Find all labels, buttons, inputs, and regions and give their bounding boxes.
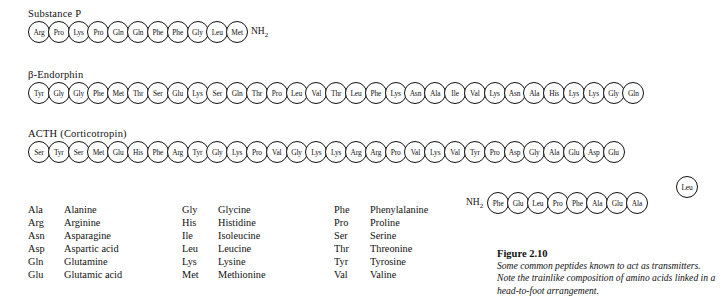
residue-val: Val (266, 141, 288, 163)
peptide-title-beta-endorphin: β-Endorphin (28, 69, 642, 80)
acth-wrap-chain: PheGluLeuProPheAlaGluAla (487, 192, 646, 214)
legend-abbreviation: Ser (334, 229, 370, 242)
legend-abbreviation: Ile (182, 229, 218, 242)
legend-name: Valine (370, 268, 428, 281)
legend-name: Arginine (64, 216, 182, 229)
residue-gln: Gln (226, 82, 248, 104)
peptide-beta-endorphin: β-Endorphin TyrGlyGlyPheMetThrSerGluLysS… (28, 69, 642, 104)
residue-phe: Phe (147, 21, 169, 43)
residue-lys: Lys (305, 141, 327, 163)
peptide-title-acth: ACTH (Corticotropin) (28, 128, 622, 139)
residue-asp: Asp (504, 141, 526, 163)
legend-name: Asparagine (64, 229, 182, 242)
residue-val: Val (305, 82, 327, 104)
residue-asp: Asp (583, 141, 605, 163)
residue-lys: Lys (226, 141, 248, 163)
legend-abbreviation: Val (334, 268, 370, 281)
residue-pro: Pro (484, 141, 506, 163)
legend-abbreviation: Glu (28, 268, 64, 281)
residue-phe: Phe (147, 141, 169, 163)
residue-lys: Lys (424, 141, 446, 163)
residue-ala: Ala (424, 82, 446, 104)
residue-gln: Gln (622, 82, 644, 104)
legend-abbreviation: Lys (182, 255, 218, 268)
residue-arg: Arg (28, 21, 50, 43)
residue-tyr: Tyr (464, 141, 486, 163)
residue-val: Val (404, 141, 426, 163)
residue-lys: Lys (325, 141, 347, 163)
acth-n-terminal-label: NH2 (466, 197, 483, 210)
amino-acid-abbreviation-legend: AlaAlanineGlyGlycinePhePhenylalanineArgA… (28, 203, 428, 282)
residue-met: Met (226, 21, 248, 43)
peptide-title-substance-p: Substance P (28, 8, 268, 19)
figure-caption-text: Some common peptides known to act as tra… (497, 260, 717, 297)
residue-his: His (127, 141, 149, 163)
legend-abbreviation: Ala (28, 203, 64, 216)
residue-ala: Ala (626, 192, 648, 214)
legend-abbreviation: Thr (334, 242, 370, 255)
legend-abbreviation: Gly (182, 203, 218, 216)
residue-val: Val (444, 141, 466, 163)
legend-abbreviation: Tyr (334, 255, 370, 268)
residue-gln: Gln (107, 21, 129, 43)
residue-arg: Arg (345, 141, 367, 163)
legend-abbreviation: Met (182, 268, 218, 281)
residue-phe: Phe (487, 192, 509, 214)
legend-name: Threonine (370, 242, 428, 255)
residue-pro: Pro (48, 21, 70, 43)
legend-name: Glycine (218, 203, 334, 216)
residue-thr: Thr (127, 82, 149, 104)
residue-thr: Thr (325, 82, 347, 104)
residue-tyr: Tyr (28, 82, 50, 104)
legend-abbreviation: Arg (28, 216, 64, 229)
residue-glu: Glu (606, 192, 628, 214)
acth-wrap-row: NH2 PheGluLeuProPheAlaGluAla (466, 192, 646, 214)
legend-name: Aspartic acid (64, 242, 182, 255)
legend-name: Methionine (218, 268, 334, 281)
acth-corner-residue-container: Leu (676, 176, 696, 198)
residue-leu: Leu (206, 21, 228, 43)
residue-ser: Ser (68, 141, 90, 163)
residue-pro: Pro (547, 192, 569, 214)
residue-met: Met (107, 82, 129, 104)
legend-name: Glutamine (64, 255, 182, 268)
legend-abbreviation: His (182, 216, 218, 229)
residue-phe: Phe (87, 82, 109, 104)
residue-asn: Asn (404, 82, 426, 104)
residue-lys: Lys (68, 21, 90, 43)
legend-name: Glutamic acid (64, 268, 182, 281)
residue-ala: Ala (586, 192, 608, 214)
residue-leu-corner: Leu (676, 176, 698, 198)
legend-name: Leucine (218, 242, 334, 255)
residue-leu: Leu (286, 82, 308, 104)
c-terminal-label: NH2 (251, 26, 268, 39)
residue-lys: Lys (563, 82, 585, 104)
residue-gly: Gly (286, 141, 308, 163)
residue-lys: Lys (187, 82, 209, 104)
residue-ser: Ser (206, 82, 228, 104)
residue-thr: Thr (246, 82, 268, 104)
residue-lys: Lys (583, 82, 605, 104)
residue-phe: Phe (566, 192, 588, 214)
residue-leu: Leu (345, 82, 367, 104)
residue-tyr: Tyr (187, 141, 209, 163)
residue-ala: Ala (523, 82, 545, 104)
residue-phe: Phe (167, 21, 189, 43)
peptide-chain-acth: SerTyrSerMetGluHisPheArgTyrGlyLysProValG… (28, 141, 622, 163)
residue-leu: Leu (527, 192, 549, 214)
legend-abbreviation: Leu (182, 242, 218, 255)
legend-name: Serine (370, 229, 428, 242)
residue-gly: Gly (523, 141, 545, 163)
legend-name: Tyrosine (370, 255, 428, 268)
residue-gly: Gly (68, 82, 90, 104)
legend-abbreviation: Phe (334, 203, 370, 216)
residue-gln: Gln (127, 21, 149, 43)
residue-pro: Pro (87, 21, 109, 43)
residue-phe: Phe (365, 82, 387, 104)
legend-abbreviation: Asn (28, 229, 64, 242)
residue-glu: Glu (563, 141, 585, 163)
residue-glu: Glu (603, 141, 625, 163)
residue-his: His (543, 82, 565, 104)
legend-abbreviation: Gln (28, 255, 64, 268)
residue-asn: Asn (504, 82, 526, 104)
